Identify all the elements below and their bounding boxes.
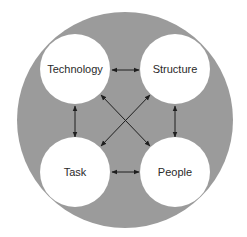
sociotechnical-diagram: Technology Structure Task People [0, 0, 247, 237]
node-structure: Structure [140, 34, 210, 104]
node-label-people: People [158, 166, 192, 178]
node-label-technology: Technology [47, 63, 103, 75]
node-task: Task [40, 137, 110, 207]
node-people: People [140, 137, 210, 207]
node-technology: Technology [40, 34, 110, 104]
node-label-task: Task [64, 166, 87, 178]
node-label-structure: Structure [153, 63, 198, 75]
